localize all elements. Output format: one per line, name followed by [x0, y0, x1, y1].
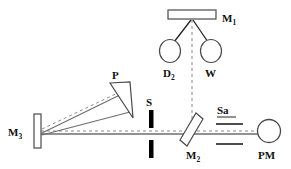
prism-p [110, 82, 133, 118]
beam-m3-to-prism-upper [42, 92, 126, 133]
slit-bar-upper [149, 110, 154, 128]
label-sample-sa: Sa [217, 104, 229, 116]
label-beamsplitter-m2: M2 [186, 149, 200, 164]
lamp-tungsten [201, 40, 222, 63]
label-detector-pm: PM [258, 149, 276, 161]
slit-bar-lower [149, 140, 154, 158]
mirror-m1 [168, 10, 216, 19]
beam-m1-to-tungsten [193, 20, 208, 42]
label-lamp-tungsten: W [205, 67, 216, 79]
label-mirror-m3: M3 [8, 126, 22, 141]
dashed-ray-prism-upper [42, 90, 124, 129]
beam-m3-to-prism-lower [42, 112, 130, 135]
detector-pm [258, 120, 281, 143]
lamp-deuterium [160, 40, 181, 63]
optical-diagram: M1 D2 W P S M3 M2 Sa PM [0, 0, 291, 169]
label-lamp-deuterium: D2 [163, 67, 175, 82]
label-slit-s: S [146, 96, 152, 108]
mirror-m3 [34, 114, 41, 148]
optics-canvas: M1 D2 W P S M3 M2 Sa PM [0, 0, 291, 169]
label-mirror-m1: M1 [222, 12, 236, 27]
label-prism-p: P [112, 69, 119, 81]
beam-m1-to-deuterium [174, 20, 191, 42]
